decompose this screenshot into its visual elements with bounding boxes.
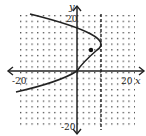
focus-point	[89, 48, 93, 52]
x-axis-label: x	[135, 75, 141, 86]
x-max-label: 20	[121, 76, 133, 86]
graph: y 20 -20 20 x -20	[0, 0, 146, 136]
y-axis-label: y	[68, 1, 75, 12]
x-min-label: -20	[12, 76, 27, 86]
y-max-label: 20	[66, 14, 78, 24]
y-min-label: -20	[61, 122, 76, 132]
